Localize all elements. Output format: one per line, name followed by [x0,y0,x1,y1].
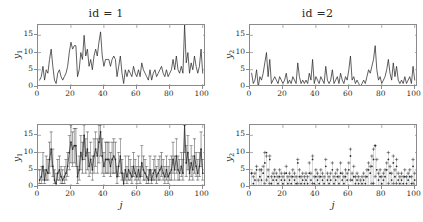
y-tick-label: 15 [225,129,245,138]
x-tick-label: 20 [270,189,294,198]
y-tick-mark [246,34,249,35]
plot-series-1 [250,25,417,86]
x-tick-mark [136,86,137,89]
x-tick-label: 60 [336,189,360,198]
x-tick-label: 80 [157,189,181,198]
y-tick-label: 5 [225,64,245,73]
x-tick-mark [381,186,382,189]
panel-bottom-left: y1 j 051015020406080100 [0,111,212,222]
y-tick-label: 15 [225,29,245,38]
x-tick-label: 100 [402,89,423,98]
x-tick-label: 60 [124,189,148,198]
y-axis-label-base: y [224,157,234,162]
x-tick-mark [414,86,415,89]
y-tick-label: 10 [13,147,33,156]
x-tick-mark [282,186,283,189]
panel-top-left: id = 1 y1 051015020406080100 [0,0,212,111]
y-tick-mark [246,69,249,70]
x-tick-mark [348,86,349,89]
x-tick-mark [249,86,250,89]
x-tick-label: 0 [237,189,261,198]
y-tick-mark [34,52,37,53]
y-tick-mark [246,152,249,153]
y-tick-mark [246,169,249,170]
y-axis-label-base: y [12,157,22,162]
y-tick-mark [34,152,37,153]
plot-series-0 [38,25,205,86]
x-tick-mark [169,86,170,89]
x-tick-mark [103,86,104,89]
x-axis-label-bottom-right: j [249,199,417,210]
x-tick-mark [202,86,203,89]
x-tick-label: 60 [336,89,360,98]
x-tick-mark [103,186,104,189]
x-tick-mark [414,186,415,189]
y-tick-label: 5 [13,164,33,173]
x-tick-label: 20 [58,189,82,198]
x-tick-label: 80 [369,89,393,98]
panel-bottom-right: y2 j 051015020406080100 [212,111,423,222]
x-tick-mark [136,186,137,189]
x-tick-label: 100 [190,189,214,198]
x-tick-label: 100 [190,89,214,98]
plot-area-top-left [37,24,205,86]
plot-series-2 [38,125,205,186]
x-tick-label: 100 [402,189,423,198]
x-tick-label: 80 [369,189,393,198]
x-tick-mark [169,186,170,189]
plot-area-bottom-right [249,124,417,186]
y-tick-mark [34,34,37,35]
x-tick-label: 0 [25,189,49,198]
panel-title-top-left: id = 1 [0,7,212,20]
x-axis-label-bottom-left: j [37,199,205,210]
y-tick-label: 15 [13,29,33,38]
plot-series-3 [250,125,417,186]
x-tick-mark [37,186,38,189]
plot-area-bottom-left [37,124,205,186]
panel-title-top-right: id =2 [212,7,423,20]
x-tick-mark [282,86,283,89]
y-tick-label: 10 [13,47,33,56]
y-tick-mark [246,52,249,53]
y-tick-label: 5 [13,64,33,73]
x-tick-mark [70,86,71,89]
x-tick-label: 0 [25,89,49,98]
x-tick-label: 20 [58,89,82,98]
y-tick-label: 10 [225,47,245,56]
x-tick-mark [315,186,316,189]
x-tick-label: 40 [303,189,327,198]
figure-canvas: id = 1 y1 051015020406080100 id =2 y2 05… [0,0,423,222]
x-tick-label: 20 [270,89,294,98]
y-tick-label: 5 [225,164,245,173]
y-tick-mark [34,134,37,135]
x-tick-mark [37,86,38,89]
y-tick-label: 15 [13,129,33,138]
x-tick-label: 60 [124,89,148,98]
x-tick-mark [249,186,250,189]
y-tick-mark [34,169,37,170]
y-tick-mark [34,69,37,70]
x-tick-mark [348,186,349,189]
x-tick-label: 40 [91,89,115,98]
x-tick-label: 40 [303,89,327,98]
x-tick-label: 80 [157,89,181,98]
x-tick-mark [202,186,203,189]
x-tick-mark [315,86,316,89]
plot-area-top-right [249,24,417,86]
x-tick-label: 0 [237,89,261,98]
panel-top-right: id =2 y2 051015020406080100 [212,0,423,111]
y-tick-label: 10 [225,147,245,156]
x-tick-label: 40 [91,189,115,198]
x-tick-mark [381,86,382,89]
x-tick-mark [70,186,71,189]
y-tick-mark [246,134,249,135]
